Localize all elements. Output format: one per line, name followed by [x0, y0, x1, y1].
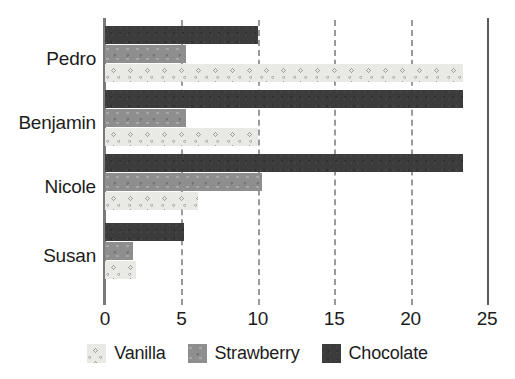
bar-nicole-vanilla[interactable]	[105, 192, 198, 210]
x-tick-label-10: 10	[247, 308, 268, 330]
legend-swatch-chocolate-icon	[322, 344, 341, 363]
chart-legend: Vanilla Strawberry Chocolate	[0, 343, 515, 364]
x-axis-max-line	[487, 18, 489, 305]
legend-swatch-strawberry-icon	[188, 344, 207, 363]
category-label-text: Benjamin	[18, 112, 96, 133]
category-label-pedro: Pedro	[0, 48, 96, 70]
bar-pedro-strawberry[interactable]	[105, 45, 186, 63]
x-tick-label-5: 5	[176, 308, 186, 330]
bar-benjamin-vanilla[interactable]	[105, 128, 258, 146]
category-label-benjamin: Benjamin	[0, 112, 96, 134]
legend-label-chocolate: Chocolate	[349, 343, 428, 364]
bar-benjamin-strawberry[interactable]	[105, 109, 186, 127]
bar-susan-strawberry[interactable]	[105, 242, 133, 260]
x-tick-label-15: 15	[324, 308, 345, 330]
x-tick-label-0: 0	[100, 308, 110, 330]
category-label-nicole: Nicole	[0, 176, 96, 198]
legend-item-chocolate[interactable]: Chocolate	[322, 343, 428, 364]
legend-swatch-vanilla-icon	[87, 344, 106, 363]
category-label-susan: Susan	[0, 245, 96, 267]
bar-nicole-strawberry[interactable]	[105, 173, 262, 191]
category-label-text: Susan	[43, 245, 96, 266]
category-label-text: Nicole	[44, 176, 96, 197]
bar-susan-chocolate[interactable]	[105, 223, 184, 241]
bar-pedro-chocolate[interactable]	[105, 26, 258, 44]
bar-benjamin-chocolate[interactable]	[105, 90, 463, 108]
legend-item-vanilla[interactable]: Vanilla	[87, 343, 165, 364]
legend-item-strawberry[interactable]: Strawberry	[188, 343, 300, 364]
bar-chart: Pedro Benjamin Nicole Susan 0 5 10 15 20…	[0, 0, 515, 379]
bar-susan-vanilla[interactable]	[105, 261, 136, 279]
bar-nicole-chocolate[interactable]	[105, 154, 463, 172]
category-label-text: Pedro	[46, 48, 96, 69]
x-tick-label-25: 25	[477, 308, 498, 330]
legend-label-strawberry: Strawberry	[215, 343, 300, 364]
plot-area	[105, 20, 487, 305]
bar-pedro-vanilla[interactable]	[105, 64, 463, 82]
legend-label-vanilla: Vanilla	[114, 343, 165, 364]
x-tick-label-20: 20	[400, 308, 421, 330]
